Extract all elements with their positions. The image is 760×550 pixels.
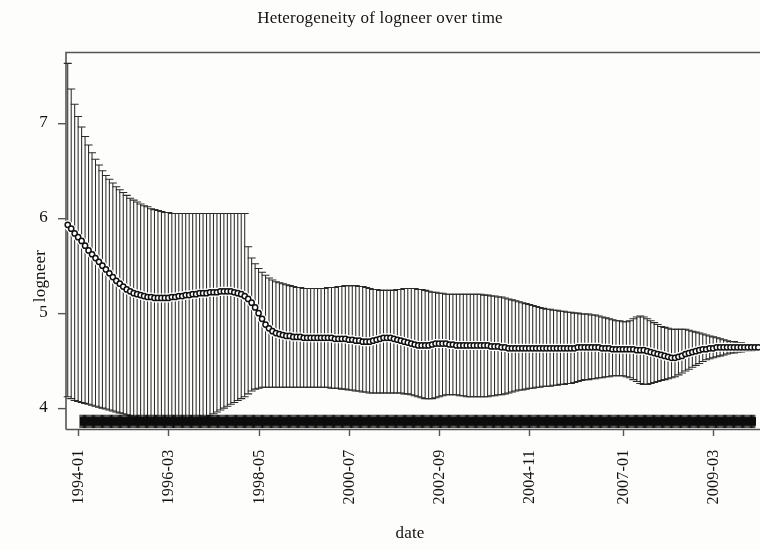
x-tick-label: 1996-03 (159, 439, 177, 515)
x-tick-label: 1994-01 (69, 439, 87, 515)
errorbar-chart-canvas (0, 0, 760, 550)
x-tick-label: 2002-09 (430, 439, 448, 515)
x-tick-label: 2004-11 (520, 439, 538, 515)
x-tick-label: 2007-01 (614, 439, 632, 515)
x-tick-label: 2000-07 (340, 439, 358, 515)
x-axis-title: date (0, 523, 760, 543)
y-tick-label: 7 (14, 112, 48, 132)
y-tick-label: 4 (14, 397, 48, 417)
x-tick-label: 2009-03 (704, 439, 722, 515)
y-tick-label: 5 (14, 302, 48, 322)
x-tick-label: 1998-05 (250, 439, 268, 515)
chart-figure: Heterogeneity of logneer over time logne… (0, 0, 760, 550)
chart-title: Heterogeneity of logneer over time (0, 8, 760, 28)
y-tick-label: 6 (14, 207, 48, 227)
